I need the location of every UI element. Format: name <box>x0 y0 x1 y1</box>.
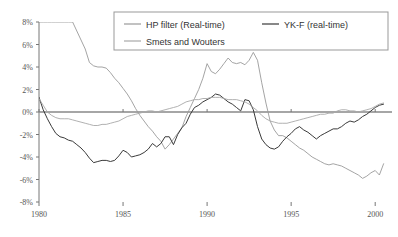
line-chart: 8%6%4%2%0%-2%-4%-6%-8% 19801985199019952… <box>0 0 398 237</box>
y-tick-label: 4% <box>22 63 33 72</box>
x-tick-label: 1980 <box>31 210 47 219</box>
x-tick-label: 1990 <box>199 210 215 219</box>
x-tick-label: 1985 <box>115 210 131 219</box>
y-tick-label: -4% <box>20 153 34 162</box>
y-tick-label: 6% <box>22 41 33 50</box>
legend-label-1: YK-F (real-time) <box>284 20 348 30</box>
x-tick-label: 2000 <box>367 210 383 219</box>
y-tick-label: 8% <box>22 18 33 27</box>
x-tick-label: 1995 <box>283 210 299 219</box>
y-tick-label: -6% <box>20 176 34 185</box>
chart-figure: 8%6%4%2%0%-2%-4%-6%-8% 19801985199019952… <box>0 0 398 237</box>
y-tick-label: -2% <box>20 131 34 140</box>
y-tick-label: -8% <box>20 198 34 207</box>
legend-label-2: Smets and Wouters <box>146 37 225 47</box>
y-tick-label: 0% <box>22 108 33 117</box>
chart-legend: HP filter (Real-time)YK-F (real-time)Sme… <box>114 12 388 50</box>
legend-label-0: HP filter (Real-time) <box>146 20 225 30</box>
y-tick-label: 2% <box>22 86 33 95</box>
